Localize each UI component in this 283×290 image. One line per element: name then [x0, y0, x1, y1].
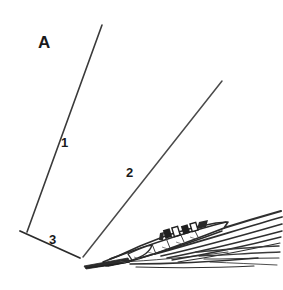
reference-label-2: 2: [126, 166, 133, 179]
panel-letter-label: A: [38, 34, 51, 51]
figure-panel-a: A 1 2 3: [0, 0, 283, 290]
reference-label-3: 3: [49, 233, 56, 246]
reference-label-1: 1: [61, 136, 68, 149]
